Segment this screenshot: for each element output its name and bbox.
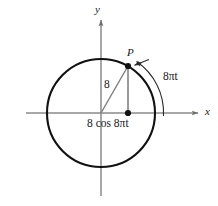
x-axis-label: x [205, 106, 210, 117]
y-axis-label: y [95, 4, 100, 15]
x-projection-label: 8 cos 8πt [87, 118, 129, 130]
projection-point-dot [125, 110, 131, 116]
circle-diagram-svg [0, 0, 218, 206]
point-p-label: P [127, 47, 134, 58]
angle-label: 8πt [163, 71, 178, 83]
radius-length-label: 8 [104, 79, 110, 91]
figure-canvas: y x P 8 8πt 8 cos 8πt [0, 0, 218, 206]
p-pointer-arrow [135, 60, 150, 66]
point-p-dot [125, 63, 131, 69]
